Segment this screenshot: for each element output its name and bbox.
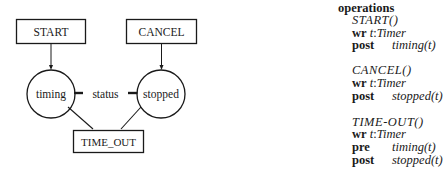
start-post-clause: posttiming(t)	[352, 39, 436, 52]
cancel-post-clause: poststopped(t)	[352, 90, 443, 103]
operations-spec: operations START() wr t:Timer posttiming…	[0, 0, 448, 172]
post-keyword: post	[352, 154, 392, 167]
timeout-post-clause: poststopped(t)	[352, 154, 443, 167]
post-keyword: post	[352, 90, 392, 103]
post-keyword: post	[352, 39, 392, 52]
